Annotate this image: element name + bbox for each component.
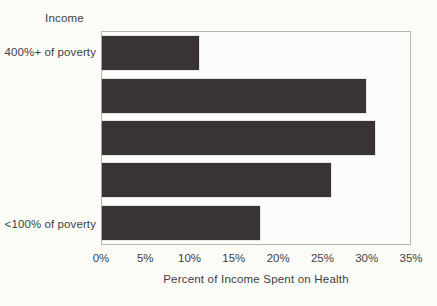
y-axis-category-labels: 400%+ of poverty<100% of poverty <box>0 31 96 245</box>
y-category-label <box>0 117 96 160</box>
bar <box>102 206 260 240</box>
bar <box>102 36 199 70</box>
bar-slot <box>102 202 410 244</box>
bar-slot <box>102 117 410 159</box>
x-tick-label: 0% <box>93 252 110 264</box>
x-tick-label: 30% <box>355 252 378 264</box>
y-category-label <box>0 159 96 202</box>
x-axis-title: Percent of Income Spent on Health <box>101 273 411 285</box>
bar <box>102 163 331 197</box>
x-tick-label: 25% <box>311 252 334 264</box>
x-tick-label: 15% <box>222 252 245 264</box>
plot-area <box>101 31 411 245</box>
bar <box>102 121 375 155</box>
bar-slot <box>102 159 410 201</box>
x-tick-label: 35% <box>399 252 422 264</box>
y-axis-header: Income <box>45 12 84 24</box>
bar <box>102 79 366 113</box>
x-axis-tick-labels: 0%5%10%15%20%25%30%35% <box>101 252 411 266</box>
x-tick-label: 10% <box>178 252 201 264</box>
x-tick-label: 20% <box>267 252 290 264</box>
x-tick-label: 5% <box>137 252 154 264</box>
y-category-label: <100% of poverty <box>0 202 96 245</box>
bar-chart-figure: Income 400%+ of poverty<100% of poverty … <box>0 0 437 306</box>
y-category-label <box>0 74 96 117</box>
y-category-label: 400%+ of poverty <box>0 31 96 74</box>
bar-slot <box>102 74 410 116</box>
bar-slot <box>102 32 410 74</box>
